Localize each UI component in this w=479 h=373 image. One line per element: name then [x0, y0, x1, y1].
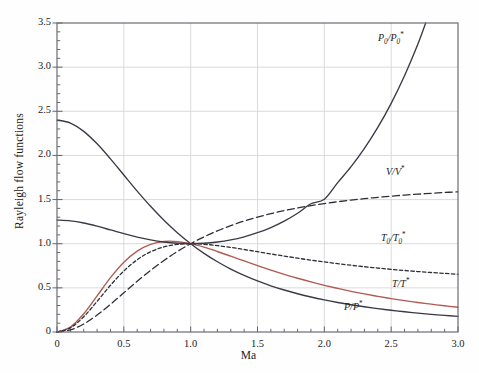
x-tick-label: 0.5 [104, 338, 144, 349]
curve-label-p: P/P* [344, 300, 363, 312]
x-axis-label: Ma [0, 349, 479, 361]
x-tick-label: 1.0 [171, 338, 211, 349]
y-tick-label: 0 [11, 325, 51, 336]
x-tick-label: 3.0 [438, 338, 478, 349]
curve-label-t0: T0/T0* [381, 231, 406, 246]
x-tick-label: 0 [37, 338, 77, 349]
chart-figure: Rayleigh flow functions Ma 00.51.01.52.0… [0, 0, 479, 373]
curve-label-v: V/V* [386, 165, 405, 177]
y-tick-label: 0.5 [11, 281, 51, 292]
y-tick-label: 1.5 [11, 193, 51, 204]
curve-label-t: T/T* [392, 277, 410, 289]
x-axis-label-text: Ma [241, 349, 256, 361]
y-tick-label: 2.0 [11, 148, 51, 159]
y-tick-label: 2.5 [11, 104, 51, 115]
y-tick-label: 3.0 [11, 60, 51, 71]
curve-label-p0: P0/P0* [378, 31, 404, 46]
x-tick-label: 2.5 [371, 338, 411, 349]
x-tick-label: 1.5 [238, 338, 278, 349]
x-tick-label: 2.0 [304, 338, 344, 349]
rayleigh-flow-plot [0, 0, 479, 373]
y-tick-label: 1.0 [11, 237, 51, 248]
y-tick-label: 3.5 [11, 16, 51, 27]
